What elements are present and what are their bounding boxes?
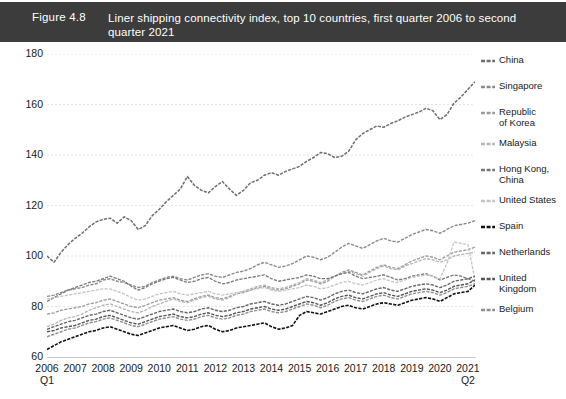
- x-axis-tick-label: 2021: [451, 362, 485, 374]
- y-axis-tick-label: 80: [3, 300, 43, 312]
- legend-item-label: Belgium: [499, 304, 533, 315]
- legend-line-swatch-icon: [481, 57, 495, 67]
- legend-item-label: Singapore: [499, 81, 542, 92]
- y-axis-tick-label: 120: [3, 199, 43, 211]
- y-axis: 6080100120140160180: [0, 54, 43, 357]
- y-axis-tick-label: 100: [3, 249, 43, 261]
- legend-line-swatch-icon: [481, 275, 495, 285]
- legend-line-swatch-icon: [481, 83, 495, 93]
- legend-item[interactable]: Hong Kong, China: [481, 164, 566, 185]
- chart-legend: ChinaSingaporeRepublic of KoreaMalaysiaH…: [481, 55, 566, 355]
- x-axis-quarter-label: Q1: [30, 374, 64, 386]
- legend-line-swatch-icon: [481, 140, 495, 150]
- legend-item[interactable]: Netherlands: [481, 247, 566, 259]
- figure-number: Figure 4.8: [32, 11, 86, 23]
- plot-area: [47, 54, 475, 357]
- legend-line-swatch-icon: [481, 306, 495, 316]
- legend-item[interactable]: Republic of Korea: [481, 107, 566, 128]
- legend-item[interactable]: Spain: [481, 221, 566, 233]
- y-axis-tick-label: 160: [3, 98, 43, 110]
- legend-item[interactable]: United States: [481, 195, 566, 207]
- legend-line-swatch-icon: [481, 197, 495, 207]
- legend-item-label: Netherlands: [499, 247, 550, 258]
- page-title: Liner shipping connectivity index, top 1…: [108, 11, 528, 39]
- legend-line-swatch-icon: [481, 249, 495, 259]
- legend-line-swatch-icon: [481, 166, 495, 176]
- legend-item-label: Malaysia: [499, 138, 537, 149]
- legend-item-label: Spain: [499, 221, 523, 232]
- y-axis-tick-label: 180: [3, 47, 43, 59]
- legend-item-label: China: [499, 55, 524, 66]
- x-axis-baseline: [47, 357, 476, 358]
- legend-item[interactable]: China: [481, 55, 566, 67]
- legend-item-label: United Kingdom: [499, 273, 537, 294]
- legend-line-swatch-icon: [481, 223, 495, 233]
- y-axis-tick-label: 60: [3, 350, 43, 362]
- y-axis-tick-label: 140: [3, 148, 43, 160]
- legend-item-label: Hong Kong, China: [499, 164, 549, 185]
- legend-item-label: United States: [499, 195, 556, 206]
- legend-item[interactable]: United Kingdom: [481, 273, 566, 294]
- x-axis-quarter-label: Q2: [451, 374, 485, 386]
- legend-item[interactable]: Belgium: [481, 304, 566, 316]
- legend-item-label: Republic of Korea: [499, 107, 536, 128]
- legend-line-swatch-icon: [481, 109, 495, 119]
- legend-item[interactable]: Malaysia: [481, 138, 566, 150]
- x-axis: 2006Q12007200820092010201120122013201420…: [47, 362, 475, 396]
- figure-title-band: Figure 4.8 Liner shipping connectivity i…: [0, 2, 566, 42]
- line-chart-svg: [47, 54, 475, 357]
- series-line: [47, 276, 475, 329]
- legend-item[interactable]: Singapore: [481, 81, 566, 93]
